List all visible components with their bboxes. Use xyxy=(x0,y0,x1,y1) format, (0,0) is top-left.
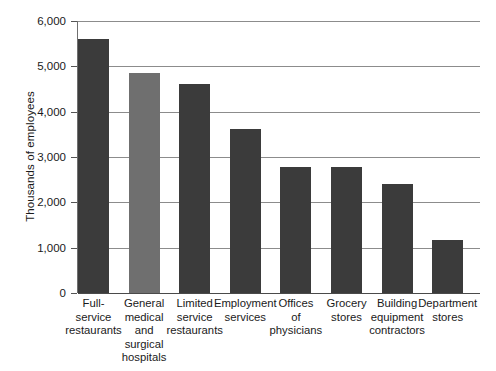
x-axis-label-line: hospitals xyxy=(108,351,180,365)
bar xyxy=(432,240,463,293)
x-axis-label-line: surgical xyxy=(108,338,180,352)
bar xyxy=(179,84,210,293)
y-tick: 4,000 xyxy=(6,106,66,118)
x-axis-label-line: restaurants xyxy=(159,324,231,338)
y-tick-label: 6,000 xyxy=(6,15,66,27)
x-axis-label-line: stores xyxy=(412,311,484,325)
y-tick-label: 4,000 xyxy=(6,106,66,118)
gridline xyxy=(78,66,480,67)
bar-chart: Thousands of employees 6,0005,0004,0003,… xyxy=(0,0,496,371)
bar xyxy=(230,129,261,293)
x-axis-label: Departmentstores xyxy=(412,297,484,324)
bar xyxy=(382,184,413,293)
y-tick-label: 1,000 xyxy=(6,242,66,254)
y-tick: 1,000 xyxy=(6,242,66,254)
bar xyxy=(129,73,160,293)
axis-baseline xyxy=(78,293,480,294)
y-tick: 3,000 xyxy=(6,151,66,163)
x-axis-label-line: Department xyxy=(412,297,484,311)
gridline xyxy=(78,21,480,22)
y-tick-label: 5,000 xyxy=(6,60,66,72)
bar xyxy=(78,39,109,293)
y-tick: 5,000 xyxy=(6,60,66,72)
y-tick-label: 2,000 xyxy=(6,196,66,208)
y-tick: 6,000 xyxy=(6,15,66,27)
bar xyxy=(331,167,362,293)
y-tick-mark xyxy=(71,293,77,294)
y-tick: 2,000 xyxy=(6,196,66,208)
y-tick-label: 3,000 xyxy=(6,151,66,163)
plot-area xyxy=(78,21,480,293)
x-axis-label-line: contractors xyxy=(361,324,433,338)
x-axis-label-line: physicians xyxy=(260,324,332,338)
bar xyxy=(280,167,311,293)
